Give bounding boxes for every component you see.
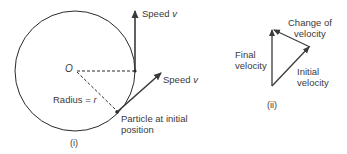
initial-label-line2: velocity (297, 77, 329, 88)
figure-ii-caption: (ii) (267, 100, 277, 111)
final-velocity-label: Final velocity (235, 49, 267, 71)
change-label-line2: velocity (288, 28, 332, 39)
speed-top-text: Speed (142, 8, 172, 19)
figure-i-caption: (i) (70, 138, 78, 149)
final-label-line2: velocity (235, 60, 267, 71)
particle-label-line1: Particle at initial (121, 113, 188, 124)
particle-label-line2: position (121, 124, 188, 135)
radius-label: Radius = r (53, 94, 97, 105)
speed-arrow-tangent (117, 73, 161, 112)
speed-top-label: Speed v (142, 8, 177, 19)
radius-dashed-line (77, 72, 117, 111)
change-of-velocity-label: Change of velocity (288, 17, 332, 39)
center-o-label: O (65, 63, 73, 74)
particle-initial-dot (115, 110, 119, 114)
initial-label-line1: Initial (297, 66, 329, 77)
speed-right-label: Speed v (163, 74, 198, 85)
radius-symbol: r (93, 94, 96, 105)
particle-top-dot (133, 69, 136, 72)
radius-text: Radius = (53, 94, 93, 105)
speed-top-symbol: v (172, 8, 177, 19)
final-label-line1: Final (235, 49, 267, 60)
particle-label: Particle at initial position (121, 113, 188, 135)
initial-velocity-label: Initial velocity (297, 66, 329, 88)
speed-right-text: Speed (163, 74, 193, 85)
change-label-line1: Change of (288, 17, 332, 28)
speed-right-symbol: v (193, 74, 198, 85)
